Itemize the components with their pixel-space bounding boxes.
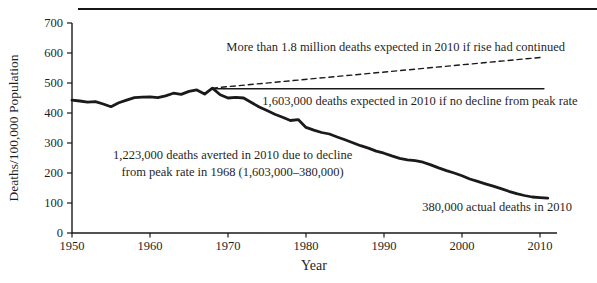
- x-tick-label: 1990: [372, 239, 397, 253]
- series-continued-rise-projection: [212, 58, 540, 89]
- x-tick-label: 2010: [528, 239, 553, 253]
- y-tick-label: 300: [44, 136, 63, 150]
- y-tick-label: 400: [44, 106, 63, 120]
- y-axis-title: Deaths/100,000 Population: [6, 55, 22, 202]
- x-tick-label: 1950: [60, 239, 85, 253]
- figure: 0100200300400500600700195019601970198019…: [0, 0, 597, 283]
- y-tick-label: 200: [44, 166, 63, 180]
- x-tick-label: 1970: [216, 239, 241, 253]
- annotation-deaths-averted: 1,223,000 deaths averted in 2010 due to …: [113, 147, 352, 182]
- annotation-rise-continued: More than 1.8 million deaths expected in…: [226, 39, 565, 56]
- y-tick-label: 100: [44, 196, 63, 210]
- y-tick-label: 600: [44, 46, 63, 60]
- x-tick-label: 1960: [138, 239, 163, 253]
- x-axis-title: Year: [301, 258, 327, 274]
- x-tick-label: 1980: [294, 239, 319, 253]
- x-tick-label: 2000: [450, 239, 475, 253]
- annotation-actual-deaths: 380,000 actual deaths in 2010: [422, 199, 572, 216]
- y-tick-label: 700: [44, 16, 63, 30]
- annotation-no-decline: 1,603,000 deaths expected in 2010 if no …: [262, 93, 577, 110]
- y-tick-label: 500: [44, 76, 63, 90]
